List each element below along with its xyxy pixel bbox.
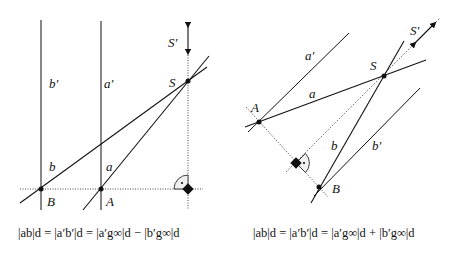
label-B: B (332, 181, 340, 196)
right-angle-dot (303, 162, 305, 164)
point-A (99, 187, 104, 192)
label-S: S (370, 58, 377, 73)
point-S (186, 79, 191, 84)
label-A: A (105, 194, 114, 209)
point-B (317, 185, 322, 190)
label-S-prime: S′ (168, 35, 178, 50)
label-a: a (309, 86, 316, 101)
label-A: A (250, 100, 259, 115)
label-b-prime: b′ (372, 138, 382, 153)
label-a-prime: a′ (104, 76, 114, 91)
label-b-prime: b′ (49, 76, 59, 91)
point-S (382, 74, 387, 79)
label-a: a (106, 159, 113, 174)
point-B (39, 187, 44, 192)
line-b-prime (314, 88, 420, 196)
label-a-prime: a′ (305, 48, 315, 63)
line-a (245, 60, 426, 127)
label-b: b (49, 159, 56, 174)
line-b (311, 41, 404, 203)
line-a-prime (248, 33, 349, 132)
diagram-canvas: b′ a′ b a S S′ B A a′ a b b′ S S′ A B (0, 0, 456, 256)
label-B: B (47, 194, 55, 209)
right-angle-dot (181, 182, 183, 184)
formula-left: |ab|d = |a′b′|d = |a′g∞|d − |b′g∞|d (18, 226, 180, 241)
label-S-prime: S′ (410, 23, 420, 38)
left-figure: b′ a′ b a S S′ B A (20, 20, 209, 210)
label-S: S (169, 75, 176, 90)
formula-right: |ab|d = |a′b′|d = |a′g∞|d + |b′g∞|d (253, 226, 415, 241)
label-b: b (331, 138, 338, 153)
point-A (257, 120, 262, 125)
right-figure: a′ a b b′ S S′ A B (245, 18, 440, 203)
